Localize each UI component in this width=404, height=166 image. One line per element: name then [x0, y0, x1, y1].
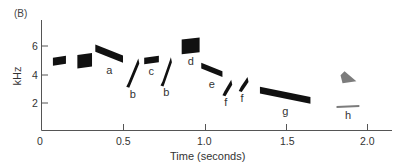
syllable-g-10 [260, 87, 311, 104]
syllable-c-4 [144, 56, 159, 64]
syllable-f-8 [222, 80, 232, 97]
syllable-d-6 [182, 37, 200, 54]
axes [42, 20, 393, 131]
syllable-label: a [106, 64, 113, 76]
syllable-label: c [149, 65, 155, 77]
syllable-f-9 [239, 77, 249, 92]
spectrogram-plot: abcbdeffgh [0, 0, 404, 166]
syllable-b-3 [126, 59, 139, 88]
syllable-label: b [163, 86, 169, 98]
syllable-intro-1 [77, 53, 92, 69]
syllable-intro-0 [53, 56, 66, 66]
syllable-label: h [345, 109, 351, 121]
syllable-a-2 [95, 44, 123, 62]
syllable-label: f [241, 92, 245, 104]
syllable-label: g [282, 105, 288, 117]
syllable-shapes [53, 37, 359, 108]
syllable-label: f [224, 96, 228, 108]
syllable-h-11 [337, 71, 360, 108]
syllable-e-7 [201, 63, 222, 77]
syllable-b-5 [160, 57, 171, 86]
syllable-label: b [130, 88, 136, 100]
syllable-label: e [209, 78, 215, 90]
syllable-label: d [188, 55, 194, 67]
